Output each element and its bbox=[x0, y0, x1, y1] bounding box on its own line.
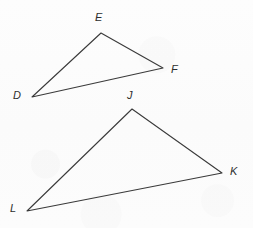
triangle-jkl bbox=[27, 109, 222, 211]
vertex-label-D: D bbox=[13, 90, 21, 101]
vertex-label-K: K bbox=[230, 166, 238, 177]
triangle-def-outline bbox=[32, 33, 163, 97]
geometry-canvas bbox=[0, 0, 253, 228]
vertex-label-F: F bbox=[171, 64, 178, 75]
triangle-def bbox=[32, 33, 163, 97]
vertex-label-J: J bbox=[127, 90, 133, 101]
triangle-jkl-outline bbox=[27, 109, 222, 211]
vertex-label-E: E bbox=[95, 12, 103, 23]
vertex-label-L: L bbox=[10, 203, 16, 214]
geometry-figure: D E F J K L bbox=[0, 0, 253, 228]
